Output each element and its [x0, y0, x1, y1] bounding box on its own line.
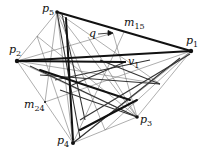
p1-point — [189, 49, 193, 53]
label-p2: p2 — [9, 44, 21, 58]
label-p3: p3 — [140, 114, 152, 128]
p5-point — [55, 10, 59, 14]
label-p5: p5 — [42, 3, 54, 17]
label-m15: m15 — [124, 17, 145, 31]
label-v1: v1 — [128, 56, 139, 70]
thin-edges — [17, 12, 191, 143]
vertex-dots — [15, 10, 193, 145]
q-arrow — [98, 31, 113, 36]
p2-point — [15, 59, 19, 63]
label-m24: m24 — [24, 99, 45, 113]
label-p1: p1 — [186, 35, 198, 49]
p4-point — [71, 141, 75, 145]
geometric-graph — [0, 0, 204, 154]
v1-point — [124, 61, 126, 63]
label-q: q — [89, 28, 96, 39]
p3-point — [135, 115, 139, 119]
label-p4: p4 — [57, 135, 69, 149]
